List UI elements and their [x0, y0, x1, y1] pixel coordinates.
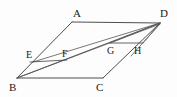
vertex-label-D: D: [160, 8, 168, 19]
vertex-label-C: C: [96, 82, 103, 93]
point-label-H: H: [134, 46, 141, 56]
vertex-label-B: B: [9, 82, 16, 93]
point-label-E: E: [26, 50, 32, 60]
point-label-G: G: [107, 46, 114, 56]
vertex-label-A: A: [73, 8, 81, 19]
edge-AD: [72, 22, 160, 23]
geometry-figure: A D B C E F G H: [0, 0, 177, 97]
point-label-F: F: [62, 49, 68, 59]
segment-G-connector: [110, 23, 160, 43]
